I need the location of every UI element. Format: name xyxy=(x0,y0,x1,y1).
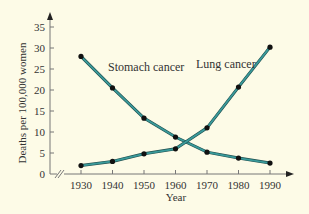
y-tick-label: 20 xyxy=(34,84,46,96)
x-axis-title: Year xyxy=(166,191,187,203)
data-point-marker xyxy=(267,160,272,165)
data-point-marker xyxy=(204,125,209,130)
y-tick-label: 25 xyxy=(34,63,46,75)
x-tick-label: 1930 xyxy=(70,179,93,191)
data-point-marker xyxy=(78,163,83,168)
y-tick-label: 15 xyxy=(34,105,46,117)
data-point-marker xyxy=(141,151,146,156)
y-axis-arrow-icon xyxy=(47,12,53,20)
x-tick-label: 1950 xyxy=(133,179,156,191)
data-point-marker xyxy=(173,134,178,139)
x-tick-label: 1940 xyxy=(102,179,125,191)
x-tick-label: 1990 xyxy=(259,179,282,191)
data-point-marker xyxy=(236,84,241,89)
line-chart: 0510152025303519301940195019601970198019… xyxy=(0,0,309,214)
y-tick-label: 30 xyxy=(34,42,46,54)
data-point-marker xyxy=(267,45,272,50)
x-tick-label: 1960 xyxy=(165,179,188,191)
data-point-marker xyxy=(141,116,146,121)
x-tick-label: 1970 xyxy=(196,179,219,191)
data-point-marker xyxy=(204,150,209,155)
axis-break-icon xyxy=(58,170,64,178)
y-tick-label: 35 xyxy=(34,21,46,33)
data-point-marker xyxy=(236,155,241,160)
data-point-marker xyxy=(110,85,115,90)
x-axis-arrow-icon xyxy=(286,171,294,177)
x-tick-label: 1980 xyxy=(228,179,251,191)
data-point-marker xyxy=(110,159,115,164)
series-label-lung: Lung cancer xyxy=(196,57,256,71)
y-tick-label: 0 xyxy=(40,168,46,180)
data-point-marker xyxy=(78,54,83,59)
y-tick-label: 10 xyxy=(34,126,46,138)
axes: 0510152025303519301940195019601970198019… xyxy=(34,12,294,191)
data-point-marker xyxy=(173,146,178,151)
y-tick-label: 5 xyxy=(40,147,46,159)
y-axis-title: Deaths per 100,000 women xyxy=(16,42,28,163)
series-label-stomach: Stomach cancer xyxy=(108,60,184,74)
